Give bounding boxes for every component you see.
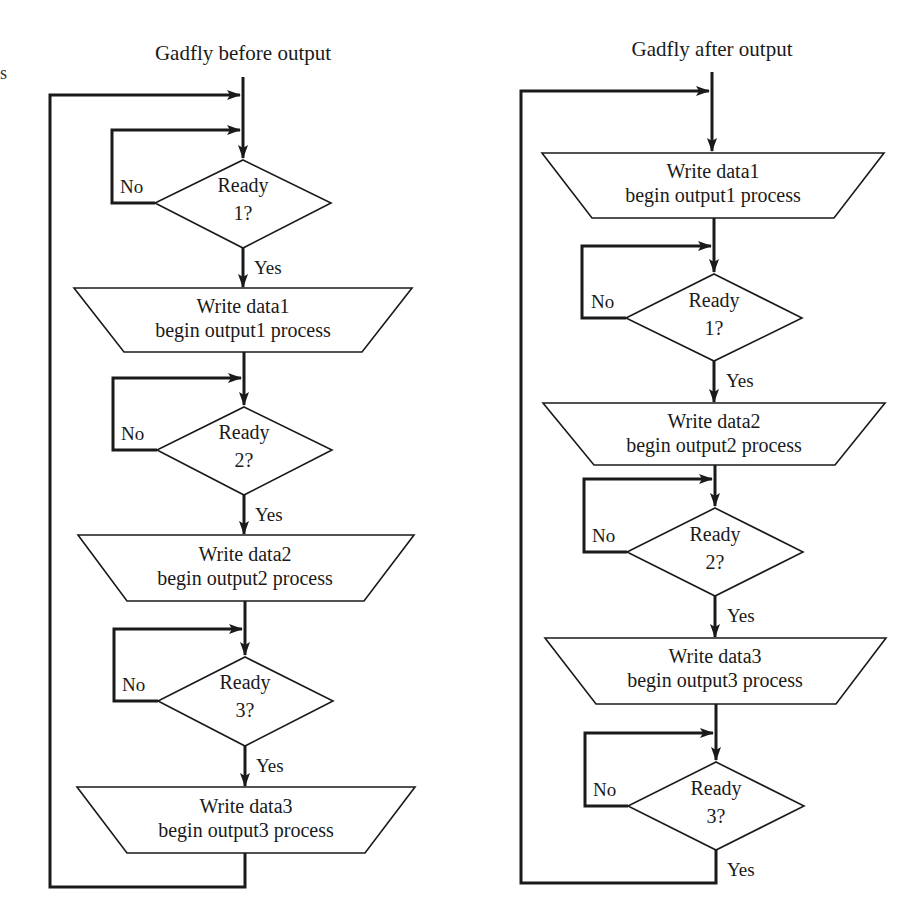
- io-write-data1-label: Write data1 begin output1 process: [155, 294, 331, 342]
- decision-ready-1-label: Ready 1?: [688, 286, 739, 342]
- yes-label: Yes: [255, 505, 283, 524]
- yes-label: Yes: [727, 860, 755, 879]
- cropped-text-fragment: s: [0, 64, 7, 82]
- io-line1: Write data2: [626, 409, 802, 433]
- decision-ready-1-label: Ready 1?: [217, 171, 268, 227]
- no-label: No: [121, 424, 144, 443]
- no-label: No: [593, 780, 616, 799]
- io-write-data1-label: Write data1 begin output1 process: [625, 159, 801, 207]
- io-line2: begin output1 process: [625, 183, 801, 207]
- io-line2: begin output1 process: [155, 318, 331, 342]
- no-label: No: [122, 675, 145, 694]
- decision-line1: Ready: [690, 774, 741, 802]
- io-write-data3-label: Write data3 begin output3 process: [627, 644, 803, 692]
- decision-ready-2-label: Ready 2?: [689, 520, 740, 576]
- io-line2: begin output3 process: [158, 818, 334, 842]
- decision-line2: 3?: [219, 696, 270, 724]
- decision-line2: 3?: [690, 802, 741, 830]
- io-line1: Write data1: [625, 159, 801, 183]
- decision-ready-3-label: Ready 3?: [219, 668, 270, 724]
- decision-line1: Ready: [218, 418, 269, 446]
- decision-line1: Ready: [217, 171, 268, 199]
- io-line1: Write data2: [157, 542, 333, 566]
- decision-line2: 2?: [218, 446, 269, 474]
- no-label: No: [591, 292, 614, 311]
- io-write-data2-label: Write data2 begin output2 process: [157, 542, 333, 590]
- flowchart-title-after: Gadfly after output: [632, 39, 793, 60]
- yes-label: Yes: [727, 606, 755, 625]
- decision-ready-3-label: Ready 3?: [690, 774, 741, 830]
- yes-label: Yes: [256, 756, 284, 775]
- decision-line1: Ready: [688, 286, 739, 314]
- flowchart-graphics: [0, 0, 914, 920]
- io-line2: begin output3 process: [627, 668, 803, 692]
- decision-line2: 2?: [689, 548, 740, 576]
- flowchart-figure: s Gadfly before output Ready 1? No Yes W…: [0, 0, 914, 920]
- decision-line2: 1?: [688, 314, 739, 342]
- yes-label: Yes: [254, 258, 282, 277]
- decision-ready-2-label: Ready 2?: [218, 418, 269, 474]
- decision-line1: Ready: [689, 520, 740, 548]
- io-line2: begin output2 process: [626, 433, 802, 457]
- io-write-data3-label: Write data3 begin output3 process: [158, 794, 334, 842]
- decision-line1: Ready: [219, 668, 270, 696]
- yes-label: Yes: [726, 371, 754, 390]
- io-line1: Write data3: [158, 794, 334, 818]
- io-line2: begin output2 process: [157, 566, 333, 590]
- no-label: No: [120, 177, 143, 196]
- io-write-data2-label: Write data2 begin output2 process: [626, 409, 802, 457]
- flowchart-title-before: Gadfly before output: [155, 43, 331, 64]
- decision-line2: 1?: [217, 199, 268, 227]
- io-line1: Write data1: [155, 294, 331, 318]
- no-label: No: [592, 526, 615, 545]
- io-line1: Write data3: [627, 644, 803, 668]
